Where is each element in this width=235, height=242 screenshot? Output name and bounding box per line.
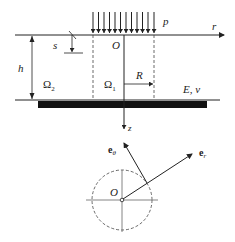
rigid-substrate xyxy=(38,101,207,108)
origin-bottom-label: O xyxy=(110,186,118,198)
z-axis-label: z xyxy=(127,123,132,133)
R-label: R xyxy=(135,69,143,81)
e-r-vector xyxy=(123,154,192,199)
h-arrow-top xyxy=(30,36,35,42)
h-arrow-bottom xyxy=(30,93,35,99)
e-r-label: er xyxy=(199,147,206,160)
distributed-load-arrows xyxy=(93,12,154,33)
s-label: s xyxy=(53,39,57,51)
omega2-label: Ω2 xyxy=(43,78,55,93)
origin-top-label: O xyxy=(112,39,120,51)
s-depth-marker xyxy=(64,31,83,53)
r-axis-label: r xyxy=(212,20,217,32)
omega1-label: Ω1 xyxy=(104,78,116,93)
e-theta-label: eθ xyxy=(108,144,116,157)
material-label: E, ν xyxy=(182,83,200,95)
h-label: h xyxy=(18,62,24,74)
load-label: p xyxy=(162,15,169,27)
e-theta-vector xyxy=(124,143,147,183)
layer-on-substrate-diagram: p r O z h s Ω2 Ω1 R E, ν O er eθ xyxy=(0,0,235,242)
